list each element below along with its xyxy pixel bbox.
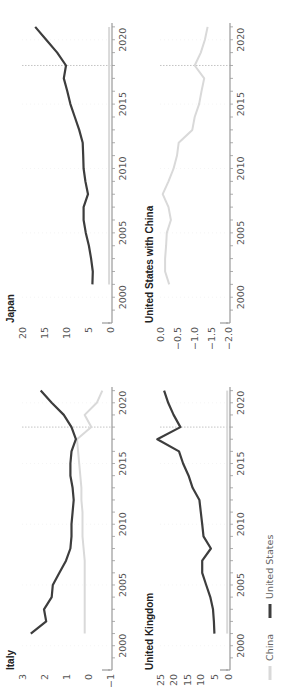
panel-title-us-china: United States with China xyxy=(144,205,155,323)
x-tick-label: 2010 xyxy=(117,156,128,180)
x-tick-label: 2000 xyxy=(235,634,246,658)
panel-title-japan: Japan xyxy=(5,294,16,323)
x-tick-label: 2020 xyxy=(235,28,246,52)
x-tick-label: 2020 xyxy=(117,391,128,415)
x-tick-label: 2015 xyxy=(235,92,246,116)
y-tick-label: 3 xyxy=(17,674,28,680)
y-tick-label: 15 xyxy=(39,327,50,339)
x-tick-label: 2010 xyxy=(235,512,246,536)
y-tick-label: 5 xyxy=(83,327,94,333)
series-line-china xyxy=(77,391,102,634)
x-tick-label: 2000 xyxy=(235,285,246,309)
x-tick-label: 2000 xyxy=(117,634,128,658)
y-tick-label: 2 xyxy=(39,674,50,680)
y-tick-label: 20 xyxy=(168,674,179,686)
legend-china-label: China xyxy=(264,634,275,661)
y-tick-label: −2.0 xyxy=(223,327,234,350)
y-tick-label: −1 xyxy=(105,674,116,688)
y-tick-label: −1.5 xyxy=(206,327,217,350)
rotated-chart-stage: Italy United Kingdom Japan United States… xyxy=(0,0,285,694)
y-tick-label: 0 xyxy=(83,674,94,680)
x-tick-label: 2000 xyxy=(117,285,128,309)
y-tick-label: 10 xyxy=(61,327,72,339)
x-tick-label: 2020 xyxy=(235,391,246,415)
panel-italy: 3210−120002005201020152020 xyxy=(17,387,129,688)
panel-japan: 2015105020002005201020152020 xyxy=(17,23,129,339)
legend-us-label: United States xyxy=(264,535,275,599)
y-tick-label: 15 xyxy=(182,674,193,686)
x-tick-label: 2015 xyxy=(117,92,128,116)
panel-us-china: 0.0−0.5−1.0−1.5−2.020002005201020152020 xyxy=(155,23,247,350)
panel-title-italy: Italy xyxy=(5,650,16,670)
x-tick-label: 2015 xyxy=(117,451,128,475)
y-tick-label: 0 xyxy=(105,327,116,333)
x-tick-label: 2005 xyxy=(235,221,246,245)
x-tick-label: 2005 xyxy=(117,573,128,597)
y-tick-label: 10 xyxy=(195,674,206,686)
panel-uk: 252015105020002005201020152020 xyxy=(155,387,247,686)
x-tick-label: 2020 xyxy=(117,28,128,52)
y-tick-label: 25 xyxy=(155,674,166,686)
y-tick-label: 5 xyxy=(209,674,220,680)
y-tick-label: −1.0 xyxy=(189,327,200,350)
x-tick-label: 2010 xyxy=(235,156,246,180)
y-tick-label: 0.0 xyxy=(155,327,166,342)
x-tick-label: 2010 xyxy=(117,512,128,536)
x-tick-label: 2005 xyxy=(235,573,246,597)
y-tick-label: 0 xyxy=(223,674,234,680)
y-tick-label: −0.5 xyxy=(172,327,183,350)
y-tick-label: 1 xyxy=(61,674,72,680)
legend: China United States xyxy=(264,535,275,680)
small-multiples-chart: Italy United Kingdom Japan United States… xyxy=(0,0,285,694)
panel-title-uk: United Kingdom xyxy=(144,593,155,670)
x-tick-label: 2015 xyxy=(235,451,246,475)
y-tick-label: 20 xyxy=(17,327,28,339)
x-tick-label: 2005 xyxy=(117,221,128,245)
